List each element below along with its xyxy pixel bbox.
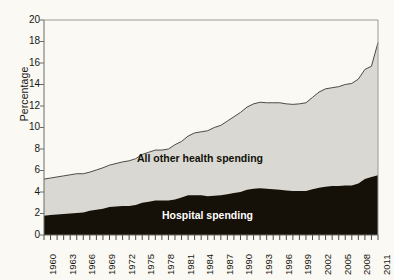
x-tick-label-1972: 1972 [127, 254, 137, 275]
annotation-hospital-spending: Hospital spending [162, 209, 253, 221]
x-tick-label-1993: 1993 [264, 254, 274, 275]
x-tick-label-1969: 1969 [107, 254, 117, 275]
x-tick-label-1981: 1981 [186, 254, 196, 275]
x-tick-label-1999: 1999 [303, 254, 313, 275]
x-tick-label-1960: 1960 [48, 254, 58, 275]
annotation-all-other-health-spending: All other health spending [137, 152, 263, 164]
x-axis-tick-labels: 1960196319661969197219751978198119841987… [0, 0, 394, 280]
x-tick-label-2011: 2011 [382, 255, 392, 275]
x-tick-label-1984: 1984 [205, 254, 215, 275]
x-tick-label-1987: 1987 [225, 254, 235, 275]
x-tick-label-1966: 1966 [87, 254, 97, 275]
x-tick-label-1996: 1996 [284, 254, 294, 275]
x-tick-label-1975: 1975 [146, 254, 156, 275]
x-tick-label-2008: 2008 [362, 254, 372, 275]
chart-figure: Percentage 20 18 16 14 12 10 8 6 4 2 0 1… [0, 0, 394, 280]
x-tick-label-2005: 2005 [343, 254, 353, 275]
x-tick-label-1978: 1978 [166, 254, 176, 275]
x-tick-label-1990: 1990 [244, 254, 254, 275]
x-tick-label-1963: 1963 [68, 254, 78, 275]
x-tick-label-2002: 2002 [323, 254, 333, 275]
